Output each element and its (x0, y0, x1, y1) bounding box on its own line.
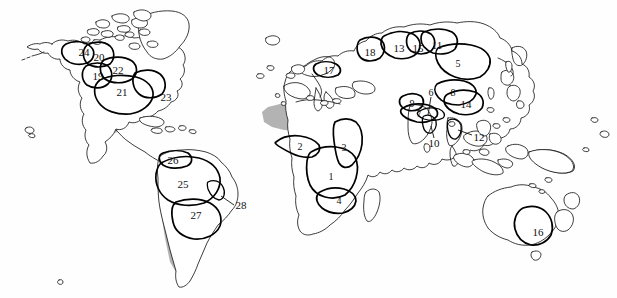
region-label-16: 16 (533, 227, 544, 238)
world-map-graphic: .coast{fill:none;stroke:#1a1a1a;stroke-w… (0, 0, 617, 298)
region-label-14: 14 (461, 99, 472, 110)
region-label-5: 5 (456, 58, 461, 69)
region-label-10: 10 (429, 138, 440, 149)
region-label-25: 25 (178, 179, 189, 190)
region-label-3: 3 (342, 142, 347, 153)
region-label-1: 1 (329, 171, 334, 182)
region-label-21: 21 (117, 87, 128, 98)
region-label-28: 28 (236, 200, 247, 211)
region-label-12: 12 (474, 132, 485, 143)
region-label-15: 15 (413, 43, 424, 54)
region-label-7: 7 (417, 108, 422, 119)
region-label-22: 22 (113, 65, 124, 76)
region-label-20: 20 (94, 52, 105, 63)
region-label-17: 17 (324, 65, 335, 76)
region-label-26: 26 (168, 155, 179, 166)
region-label-24: 24 (79, 47, 90, 58)
region-label-27: 27 (191, 210, 202, 221)
coast-iceland (265, 36, 279, 45)
region-label-9: 9 (410, 98, 415, 109)
region-label-6: 6 (429, 87, 434, 98)
region-label-19: 19 (93, 71, 104, 82)
region-label-11: 11 (432, 40, 443, 51)
region-label-8: 8 (451, 87, 456, 98)
coast-new-zealand-north (564, 193, 580, 209)
region-label-13: 13 (394, 43, 405, 54)
world-map-figure: .coast{fill:none;stroke:#1a1a1a;stroke-w… (0, 0, 617, 298)
region-label-18: 18 (365, 47, 376, 58)
coast-tasmania (531, 251, 541, 260)
region-label-4: 4 (337, 195, 342, 206)
region-label-2: 2 (298, 141, 303, 152)
region-label-23: 23 (161, 92, 172, 103)
